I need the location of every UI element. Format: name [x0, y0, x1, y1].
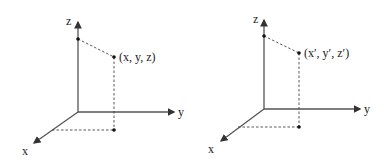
base-projection-point — [112, 128, 116, 132]
right-diagram: z y x (x′, y′, z′) — [208, 12, 370, 156]
projection-line — [78, 39, 114, 57]
point-label: (x, y, z) — [119, 50, 156, 64]
z-label: z — [253, 12, 258, 26]
base-projection-point — [297, 125, 301, 129]
x-axis — [34, 112, 78, 143]
y-label: y — [178, 105, 184, 119]
left-diagram: z y x (x, y, z) — [22, 14, 184, 158]
point — [297, 51, 301, 55]
coordinate-diagrams: z y x (x, y, z) z y x (x′, y′, z′) — [0, 0, 384, 166]
projection-line — [264, 36, 299, 53]
point — [112, 55, 116, 59]
z-label: z — [66, 14, 71, 28]
x-axis — [221, 109, 264, 141]
y-label: y — [364, 102, 370, 116]
x-label: x — [22, 144, 28, 158]
x-label: x — [208, 142, 214, 156]
point-label: (x′, y′, z′) — [304, 46, 349, 60]
z-projection-point — [262, 34, 266, 38]
z-projection-point — [76, 37, 80, 41]
